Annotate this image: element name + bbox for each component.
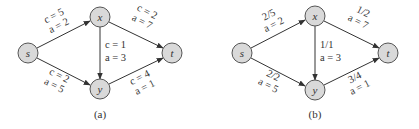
node-t: t — [162, 43, 182, 63]
node-y: y — [90, 79, 110, 99]
node-y: y — [305, 80, 325, 100]
svg-text:y: y — [97, 83, 103, 95]
edge-label-x-y: c = 1 a = 3 — [105, 39, 126, 63]
edge-label-y-t: 3/4 a = 1 — [343, 68, 372, 97]
flow-network-diagrams: c = 5 a = 2 c = 2 a = 5 c = 1 a = 3 c = … — [0, 0, 419, 129]
svg-text:a = 3: a = 3 — [105, 52, 126, 63]
edge-label-y-t: c = 4 a = 1 — [128, 67, 157, 97]
node-s: s — [18, 43, 38, 63]
edge-label-s-x: 2/5 a = 2 — [257, 5, 286, 34]
node-t: t — [378, 43, 398, 63]
edge-label-x-t: c = 2 a = 7 — [130, 2, 159, 31]
caption-b: (b) — [309, 108, 322, 121]
edge-label-s-y: c = 2 a = 5 — [43, 66, 72, 95]
node-s: s — [232, 43, 252, 63]
svg-text:1/1: 1/1 — [320, 39, 333, 50]
edge-label-s-y: 2/2 a = 5 — [257, 66, 286, 95]
svg-text:s: s — [240, 47, 244, 59]
svg-text:x: x — [97, 11, 103, 23]
svg-text:c = 1: c = 1 — [105, 39, 126, 50]
figure-a: c = 5 a = 2 c = 2 a = 5 c = 1 a = 3 c = … — [18, 2, 182, 121]
svg-text:s: s — [26, 47, 30, 59]
svg-text:a = 3: a = 3 — [320, 52, 341, 63]
edge-label-x-t: 1/2 a = 7 — [346, 2, 375, 31]
svg-text:x: x — [312, 10, 318, 22]
node-x: x — [90, 7, 110, 27]
caption-a: (a) — [94, 108, 107, 121]
svg-text:y: y — [312, 84, 318, 96]
figure-b: 2/5 a = 2 2/2 a = 5 1/1 a = 3 1/2 a = 7 … — [232, 2, 398, 121]
node-x: x — [305, 6, 325, 26]
edge-label-x-y: 1/1 a = 3 — [320, 39, 341, 63]
edge-label-s-x: c = 5 a = 2 — [42, 6, 71, 35]
